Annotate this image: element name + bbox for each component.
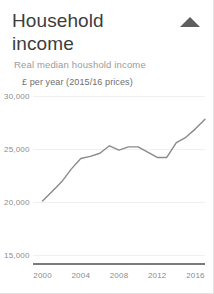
chart-x-tick-labels: 20002004200820122016 xyxy=(33,271,205,280)
chart-y-tick-label: 20,000 xyxy=(4,198,30,207)
chart-x-tick-label: 2012 xyxy=(148,271,167,280)
triangle-up-icon xyxy=(177,14,203,30)
chart-x-tick-label: 2000 xyxy=(33,271,52,280)
chart-series-line xyxy=(43,119,205,201)
y-axis-unit-label: £ per year (2015/16 prices) xyxy=(22,77,133,88)
chart-gridlines xyxy=(33,96,205,255)
chart-y-tick-label: 15,000 xyxy=(4,251,30,260)
line-chart: 30,00025,00020,00015,000 200020042008201… xyxy=(0,88,214,294)
chart-x-tick-label: 2004 xyxy=(71,271,90,280)
collapse-toggle-button[interactable] xyxy=(177,14,203,30)
chart-y-tick-label: 30,000 xyxy=(4,92,30,101)
chart-y-tick-labels: 30,00025,00020,00015,000 xyxy=(4,92,30,260)
page-title: Household income xyxy=(12,9,147,55)
chart-y-tick-label: 25,000 xyxy=(4,145,30,154)
chart-x-tick-label: 2016 xyxy=(186,271,205,280)
card-subtitle: Real median houshold income xyxy=(14,59,146,71)
household-income-card: Household income Real median houshold in… xyxy=(0,0,214,294)
chart-x-tick-label: 2008 xyxy=(110,271,129,280)
